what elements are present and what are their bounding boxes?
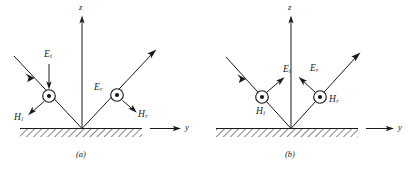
reflected-H-out-of-page-symbol-b — [314, 91, 327, 104]
reflected-H-arrow-a — [123, 101, 137, 113]
reflected-E-label-b: Er — [310, 64, 319, 74]
reflected-H-symbol-b: H — [329, 94, 336, 104]
reflected-H-label-b: Hr — [329, 95, 339, 105]
incident-H-subscript-a: i — [21, 115, 23, 122]
incident-H-arrow-a — [28, 102, 44, 116]
incident-E-out-of-page-symbol-a — [43, 90, 56, 103]
panel-a-caption: (a) — [76, 150, 86, 159]
z-axis-label-b: z — [288, 3, 291, 12]
incident-H-label-a: Hi — [14, 113, 23, 123]
reflected-H-symbol-a: H — [138, 109, 145, 119]
y-axis-label-b: y — [398, 123, 402, 132]
reflected-H-subscript-b: r — [336, 97, 339, 104]
incident-E-symbol-b: E — [283, 64, 289, 74]
panel-b-graphics — [204, 0, 408, 170]
incident-H-subscript-b: i — [263, 109, 265, 116]
z-axis-a — [79, 16, 84, 129]
incident-E-subscript-a: i — [50, 52, 52, 59]
y-axis-b — [366, 126, 394, 132]
incident-H-symbol-a: H — [14, 112, 21, 122]
reflected-H-label-a: Hr — [138, 110, 148, 120]
reflected-E-symbol-b: E — [310, 63, 316, 73]
reflected-E-label-a: Er — [94, 83, 103, 93]
panel-b-caption: (b) — [285, 150, 295, 159]
incident-E-subscript-b: i — [289, 67, 291, 74]
incident-E-label-b: Ei — [283, 65, 291, 75]
incident-E-arrow-b — [267, 77, 285, 92]
y-axis-a — [150, 126, 181, 132]
z-axis-label-a: z — [79, 3, 82, 12]
incident-E-arrow-a — [46, 64, 51, 90]
panel-a: z y Ei Hi Er Hr (a) — [0, 0, 204, 170]
reflection-diagram-figure: z y Ei Hi Er Hr (a) — [0, 0, 408, 170]
incident-H-label-b: Hi — [256, 107, 265, 117]
reflected-E-symbol-a: E — [94, 82, 100, 92]
incident-E-label-a: Ei — [44, 50, 52, 60]
incident-H-symbol-b: H — [256, 106, 263, 116]
incident-H-out-of-page-symbol-b — [256, 91, 269, 104]
reflected-E-out-of-page-symbol-a — [111, 89, 124, 102]
incident-E-symbol-a: E — [44, 49, 50, 59]
reflected-ray-b — [291, 53, 361, 129]
conducting-surface-a — [20, 129, 142, 138]
conducting-surface-b — [216, 129, 358, 138]
reflected-E-subscript-b: r — [316, 66, 319, 73]
reflected-H-subscript-a: r — [145, 112, 148, 119]
panel-b: z y Ei Hi Er Hr (b) — [204, 0, 408, 170]
reflected-E-subscript-a: r — [100, 85, 103, 92]
reflected-E-arrow-b — [299, 77, 315, 92]
y-axis-label-a: y — [185, 123, 189, 132]
